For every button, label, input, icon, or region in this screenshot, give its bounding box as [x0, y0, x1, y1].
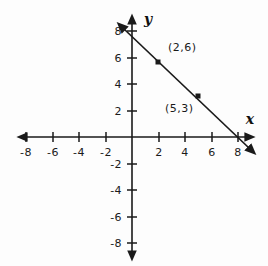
- y-tick-label-6: 6: [115, 52, 122, 65]
- graph-figure: -8 -6 -4 -2 2 4 6 8 x 8 6 4 2: [0, 0, 268, 266]
- y-axis-label: y: [143, 11, 153, 27]
- x-tick-label-minus4: -4: [73, 146, 85, 159]
- data-point-5-3: [196, 94, 201, 99]
- y-tick-label-4: 4: [115, 78, 122, 91]
- x-tick-label-8: 8: [234, 146, 241, 159]
- x-axis-label: x: [245, 111, 255, 127]
- y-tick-label-8: 8: [115, 25, 122, 38]
- y-axis: 8 6 4 2 -2 -4 -6 -8 y: [110, 11, 153, 252]
- x-tick-label-minus6: -6: [47, 146, 59, 159]
- x-tick-label-minus8: -8: [20, 146, 32, 159]
- x-axis: -8 -6 -4 -2 2 4 6 8 x: [20, 111, 255, 159]
- x-tick-label-4: 4: [181, 146, 188, 159]
- y-tick-label-minus6: -6: [110, 211, 122, 224]
- x-tick-label-6: 6: [208, 146, 215, 159]
- y-tick-label-minus8: -8: [110, 237, 122, 250]
- y-tick-label-2: 2: [115, 105, 122, 118]
- point-label-5-3: (5,3): [165, 102, 194, 115]
- data-point-2-6: [156, 60, 161, 65]
- x-tick-label-2: 2: [155, 146, 162, 159]
- y-tick-label-minus4: -4: [110, 184, 122, 197]
- coordinate-plane-svg: -8 -6 -4 -2 2 4 6 8 x 8 6 4 2: [0, 0, 268, 266]
- y-tick-label-minus2: -2: [110, 158, 122, 171]
- point-label-2-6: (2,6): [168, 41, 197, 54]
- point-annotations: (2,6) (5,3): [165, 41, 197, 115]
